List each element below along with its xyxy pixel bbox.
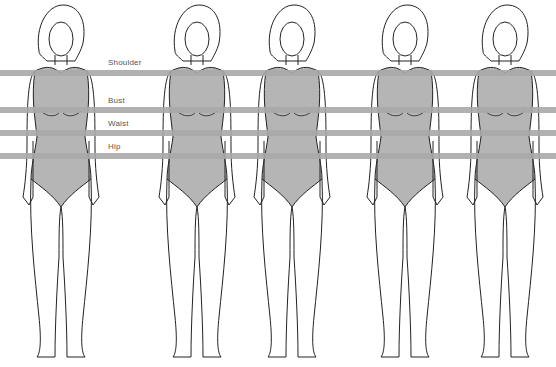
bust-label: Bust <box>108 96 125 105</box>
shoulder-label: Shoulder <box>108 58 142 67</box>
shoulder-line <box>0 70 556 76</box>
figure-3 <box>254 5 330 357</box>
figure-1 <box>0 0 556 367</box>
waist-label: Waist <box>108 119 129 128</box>
figure-2 <box>159 5 235 357</box>
figure-5 <box>467 5 543 357</box>
hip-line <box>0 153 556 159</box>
hip-label: Hip <box>108 142 121 151</box>
waist-line <box>0 130 556 136</box>
body-shape-diagram: Shoulder Bust Waist Hip <box>0 0 556 367</box>
figure-4 <box>367 5 443 357</box>
bust-line <box>0 107 556 113</box>
